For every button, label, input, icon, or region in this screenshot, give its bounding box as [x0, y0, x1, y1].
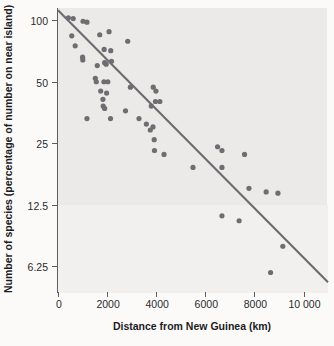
y-axis-tick: 12.5 [52, 205, 58, 206]
data-point [105, 79, 110, 84]
data-point [108, 48, 113, 53]
y-axis-tick-label: 50 [36, 77, 48, 89]
data-point [71, 16, 76, 21]
x-axis-tick: 6000 [205, 292, 206, 297]
y-axis-tick: 25 [52, 143, 58, 144]
data-point [157, 99, 162, 104]
data-point [190, 165, 195, 170]
y-axis-title: Number of species (percentage of number … [2, 8, 18, 293]
data-point [94, 79, 99, 84]
data-point [84, 20, 89, 25]
data-point [125, 39, 130, 44]
data-point [98, 88, 103, 93]
data-point [109, 59, 114, 64]
data-point [100, 97, 105, 102]
y-axis-tick-label: 100 [30, 15, 48, 27]
data-point [264, 189, 269, 194]
data-point [128, 85, 133, 90]
data-point [102, 47, 107, 52]
data-points-layer [58, 8, 328, 293]
data-point [246, 186, 251, 191]
x-axis-tick-label: 6000 [195, 298, 218, 310]
data-point [108, 116, 113, 121]
data-point [136, 116, 141, 121]
data-point [219, 165, 224, 170]
data-point [242, 152, 247, 157]
data-point [268, 270, 273, 275]
x-axis-tick: 0 [58, 292, 59, 297]
x-axis-tick: 10 000 [304, 292, 305, 297]
x-axis-title: Distance from New Guinea (km) [57, 320, 327, 332]
y-axis-tick: 50 [52, 82, 58, 83]
y-axis-tick-label: 6.25 [28, 261, 48, 273]
data-point [153, 88, 158, 93]
data-point [144, 121, 149, 126]
data-point [123, 108, 128, 113]
data-point [66, 15, 71, 20]
data-point [280, 244, 285, 249]
scatter-plot-figure: 100502512.56.25 0200040006000800010 000 … [0, 0, 334, 346]
data-point [275, 191, 280, 196]
data-point [69, 33, 74, 38]
data-point [219, 213, 224, 218]
x-axis-tick: 8000 [254, 292, 255, 297]
data-point [148, 127, 153, 132]
data-point [106, 29, 111, 34]
x-axis-tick-label: 8000 [244, 298, 267, 310]
data-point [95, 63, 100, 68]
data-point [152, 148, 157, 153]
data-point [161, 152, 166, 157]
x-axis-tick-label: 2000 [96, 298, 119, 310]
y-axis-tick-label: 25 [36, 138, 48, 150]
data-point [149, 103, 154, 108]
data-point [215, 144, 220, 149]
x-axis-tick-label: 0 [56, 298, 62, 310]
data-point [80, 57, 85, 62]
data-point [102, 106, 107, 111]
data-point [104, 62, 109, 67]
x-axis-tick: 2000 [107, 292, 108, 297]
data-point [84, 116, 89, 121]
x-axis-tick: 4000 [156, 292, 157, 297]
x-axis-tick-label: 4000 [146, 298, 169, 310]
y-axis-tick: 100 [52, 20, 58, 21]
data-point [104, 90, 109, 95]
plot-panel: 100502512.56.25 0200040006000800010 000 [57, 8, 327, 293]
y-axis-tick-label: 12.5 [28, 200, 48, 212]
data-point [97, 32, 102, 37]
data-point [73, 43, 78, 48]
y-axis-tick: 6.25 [52, 266, 58, 267]
data-point [219, 148, 224, 153]
data-point [152, 137, 157, 142]
data-point [237, 218, 242, 223]
x-axis-tick-label: 10 000 [288, 298, 320, 310]
